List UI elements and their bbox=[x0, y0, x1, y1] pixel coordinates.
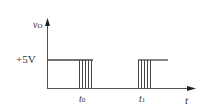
level-label: +5V bbox=[16, 54, 36, 65]
y-axis-arrow-icon bbox=[45, 18, 50, 26]
t0-label: t0 bbox=[79, 94, 85, 104]
t0-label-sub: 0 bbox=[82, 96, 86, 104]
y-axis-label: vO bbox=[33, 20, 43, 30]
y-label-sub: O bbox=[37, 22, 42, 30]
bounce-lines-t0 bbox=[80, 60, 92, 88]
t1-label: t1 bbox=[139, 94, 145, 104]
bounce-lines-t1 bbox=[139, 60, 151, 88]
x-axis-label: t bbox=[185, 95, 188, 106]
x-axis-arrow-icon bbox=[187, 86, 196, 91]
t1-label-sub: 1 bbox=[142, 96, 146, 104]
